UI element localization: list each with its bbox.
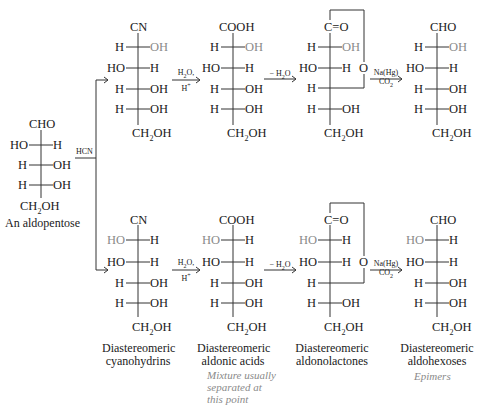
group-bottom: CH2OH (432, 320, 471, 340)
reagent-line1: Na(Hg) (370, 68, 402, 77)
group-right: H (449, 233, 458, 247)
group-right: OH (245, 296, 263, 310)
group-top: CHO (29, 117, 55, 131)
reagent-hydrolysis: H2O, H+ (172, 68, 200, 92)
group-right: H (342, 61, 351, 75)
group-right: H (150, 61, 159, 75)
reagent-line2: H+ (172, 271, 200, 283)
group-right: H (449, 61, 458, 75)
group-right-new: OH (342, 40, 360, 54)
group-bottom: CH2OH (227, 126, 266, 146)
group-left: HO (202, 255, 220, 269)
group-top: CN (130, 20, 147, 34)
reagent-reduction: Na(Hg) CO2 (370, 68, 402, 90)
group-top: C=O (324, 213, 348, 227)
reagent-line2: CO2 (370, 268, 402, 281)
group-right: OH (150, 102, 168, 116)
group-left: H (414, 82, 423, 96)
group-right: H (245, 233, 254, 247)
note-line1: Mixture usually (207, 369, 276, 381)
group-top: COOH (219, 213, 254, 227)
group-right: OH (53, 158, 71, 172)
group-right-new: OH (150, 40, 168, 54)
reagent-line1: H2O, (172, 258, 200, 271)
reagent-line2: CO2 (370, 77, 402, 90)
ring-oxygen: O (359, 255, 368, 269)
group-left: H (307, 40, 316, 54)
group-left: H (115, 276, 124, 290)
note-line3: this point (207, 393, 248, 405)
group-right: OH (150, 276, 168, 290)
group-left: H (115, 102, 124, 116)
group-right: H (342, 255, 351, 269)
group-right: OH (449, 102, 467, 116)
group-right: H (150, 255, 159, 269)
group-right: OH (342, 102, 360, 116)
group-left: H (414, 102, 423, 116)
group-right: OH (449, 82, 467, 96)
group-right: H (449, 255, 458, 269)
group-top: CHO (430, 20, 456, 34)
reagent-dehydration: − H2O (264, 260, 296, 273)
group-bottom: CH2OH (324, 320, 363, 340)
ring-oxygen: O (359, 61, 368, 75)
group-right: OH (53, 178, 71, 192)
group-bottom: CH2OH (432, 126, 471, 146)
group-left: H (115, 296, 124, 310)
reagent-hydrolysis: H2O, H+ (172, 258, 200, 282)
group-right-new: OH (245, 40, 263, 54)
group-left: H (210, 82, 219, 96)
group-left: HO (10, 138, 28, 152)
group-right: OH (449, 296, 467, 310)
reagent-hcn: HCN (76, 147, 93, 156)
group-left: H (210, 296, 219, 310)
group-left: H (414, 40, 423, 54)
group-left-new: HO (107, 233, 125, 247)
note-line2: separated at (207, 381, 262, 393)
group-left-new: HO (202, 233, 220, 247)
group-right: OH (245, 82, 263, 96)
group-left: HO (202, 61, 220, 75)
reagent-reduction: Na(Hg) CO2 (370, 259, 402, 281)
group-left: H (18, 158, 27, 172)
group-top: C=O (324, 20, 348, 34)
reagent-dehydration: − H2O (264, 69, 296, 82)
reagent-line1: Na(Hg) (370, 259, 402, 268)
caption-line2: cyanohydrins (102, 355, 174, 368)
group-top: COOH (219, 20, 254, 34)
group-right: OH (245, 102, 263, 116)
group-bottom: CH2OH (227, 320, 266, 340)
group-bottom: CH2OH (324, 126, 363, 146)
group-left: H (414, 296, 423, 310)
group-left: H (307, 296, 316, 310)
group-left: H (115, 82, 124, 96)
reagent-line2: H+ (172, 81, 200, 93)
group-left-new: HO (299, 233, 317, 247)
group-left: H (307, 276, 316, 290)
group-left: H (307, 81, 316, 95)
group-right: H (342, 233, 351, 247)
group-right-new: OH (449, 40, 467, 54)
group-right: OH (449, 276, 467, 290)
group-left: H (414, 276, 423, 290)
caption-line2: aldonic acids (197, 355, 269, 368)
group-left: HO (107, 61, 125, 75)
group-right: H (53, 138, 62, 152)
group-left: H (210, 40, 219, 54)
group-left: HO (107, 255, 125, 269)
group-right: H (245, 255, 254, 269)
group-left: HO (299, 61, 317, 75)
group-left: H (210, 102, 219, 116)
group-left: HO (299, 255, 317, 269)
group-left: H (115, 40, 124, 54)
group-right: OH (245, 276, 263, 290)
caption-aldopentose: An aldopentose (5, 217, 80, 230)
group-left: HO (406, 61, 424, 75)
note-epimers: Epimers (414, 370, 451, 382)
group-top: CHO (430, 213, 456, 227)
group-bottom: CH2OH (132, 126, 171, 146)
group-top: CN (130, 213, 147, 227)
reagent-line1: H2O, (172, 68, 200, 81)
group-left: H (18, 178, 27, 192)
group-right: H (150, 233, 159, 247)
